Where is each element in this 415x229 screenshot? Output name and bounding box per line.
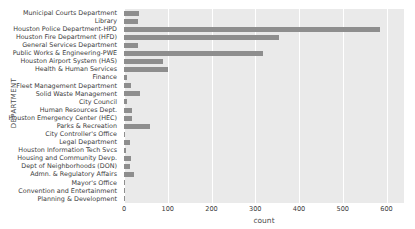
bar (124, 19, 138, 24)
bar-chart: DEPARTMENT Municipal Courts DepartmentLi… (0, 0, 415, 229)
bar (124, 11, 139, 16)
bar (124, 156, 131, 161)
bar-row (124, 27, 404, 32)
bar (124, 35, 279, 40)
bar-row (124, 91, 404, 96)
y-axis-tick-labels: Municipal Courts DepartmentLibraryHousto… (0, 9, 120, 203)
x-axis-tick-label: 100 (161, 205, 174, 213)
bar (124, 108, 132, 113)
bar (124, 140, 130, 145)
bar-row (124, 11, 404, 16)
bar-row (124, 172, 404, 177)
bar-row (124, 19, 404, 24)
bar-row (124, 108, 404, 113)
bar-row (124, 180, 404, 185)
bar (124, 116, 132, 121)
bar (124, 51, 263, 56)
x-axis-tick-label: 200 (205, 205, 218, 213)
bar-row (124, 188, 404, 193)
bar-row (124, 75, 404, 80)
bar (124, 99, 127, 104)
bar-row (124, 43, 404, 48)
bar (124, 196, 125, 201)
bar (124, 91, 140, 96)
x-axis-tick-label: 600 (380, 205, 393, 213)
bar-row (124, 124, 404, 129)
x-axis-tick-label: 500 (336, 205, 349, 213)
bar-row (124, 156, 404, 161)
bar (124, 83, 131, 88)
plot-area (124, 9, 404, 203)
bar (124, 59, 163, 64)
x-axis-tick-label: 400 (293, 205, 306, 213)
bar (124, 180, 125, 185)
bar (124, 124, 150, 129)
bar-row (124, 51, 404, 56)
bar-row (124, 196, 404, 201)
x-axis-tick-label: 0 (122, 205, 126, 213)
bar (124, 164, 130, 169)
bar (124, 27, 380, 32)
bar-row (124, 148, 404, 153)
bar (124, 148, 126, 153)
y-axis-tick-label: Planning & Development (37, 195, 117, 203)
bar-row (124, 132, 404, 137)
bar (124, 67, 168, 72)
bar (124, 172, 134, 177)
bar (124, 188, 125, 193)
bar-row (124, 164, 404, 169)
x-axis-tick-label: 300 (249, 205, 262, 213)
bar (124, 43, 138, 48)
bar-row (124, 67, 404, 72)
bar-row (124, 59, 404, 64)
bar-row (124, 35, 404, 40)
bar-row (124, 116, 404, 121)
bar-series (124, 9, 404, 203)
bar-row (124, 140, 404, 145)
bar-row (124, 83, 404, 88)
bar-row (124, 99, 404, 104)
bar (124, 75, 127, 80)
x-axis-title: count (124, 216, 404, 225)
bar (124, 132, 125, 137)
